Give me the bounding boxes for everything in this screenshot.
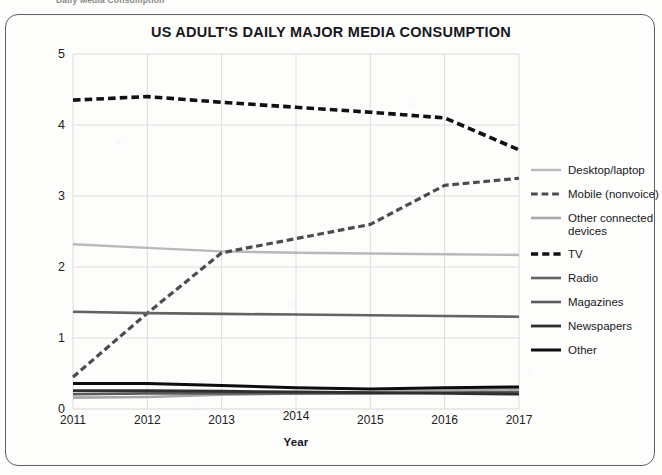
legend-item[interactable]: TV <box>531 247 659 262</box>
legend-item[interactable]: Desktop/laptop <box>531 163 659 178</box>
legend-item-label: Magazines <box>568 295 624 309</box>
legend-item[interactable]: Other connected devices <box>531 211 659 238</box>
line-chart-canvas <box>73 54 519 409</box>
legend-item-label: Radio <box>568 271 598 285</box>
page-caption-cropped: Daily Media Consumption <box>56 0 165 5</box>
y-axis: 012345 <box>32 54 65 409</box>
scanned-page: Daily Media Consumption US ADULT'S DAILY… <box>0 0 662 475</box>
plot-area <box>73 54 519 409</box>
legend-swatch-icon <box>531 271 561 285</box>
legend-swatch-icon <box>531 187 561 201</box>
y-axis-tick-label: 1 <box>58 331 65 345</box>
x-axis-tick-label: 2011 <box>60 413 86 427</box>
legend-swatch-icon <box>531 319 561 333</box>
plot-container: 012345 2011201220132014201520162017 Year <box>32 54 519 409</box>
legend-swatch-icon <box>531 211 561 225</box>
x-axis: 2011201220132014201520162017 <box>73 411 519 435</box>
legend-swatch-icon <box>531 247 561 261</box>
chart-legend: Desktop/laptopMobile (nonvoice)Other con… <box>531 163 659 367</box>
legend-item-label: Mobile (nonvoice) <box>568 187 659 201</box>
y-axis-tick-label: 4 <box>58 118 65 132</box>
y-axis-tick-label: 5 <box>58 47 65 61</box>
legend-swatch-icon <box>531 163 561 177</box>
legend-item-label: Other <box>568 343 597 357</box>
legend-item-label: TV <box>568 247 583 261</box>
x-axis-tick-label: 2012 <box>134 413 161 427</box>
x-axis-tick-label: 2017 <box>506 413 533 427</box>
y-axis-tick-label: 2 <box>58 260 65 274</box>
x-axis-tick-label: 2016 <box>431 413 458 427</box>
legend-swatch-icon <box>531 343 561 357</box>
x-axis-tick-label: 2014 <box>283 409 310 423</box>
chart-title: US ADULT'S DAILY MAJOR MEDIA CONSUMPTION <box>0 24 662 40</box>
legend-swatch-icon <box>531 295 561 309</box>
legend-item-label: Newspapers <box>568 319 632 333</box>
legend-item-label: Other connected devices <box>568 211 659 238</box>
y-axis-tick-label: 3 <box>58 189 65 203</box>
legend-item[interactable]: Other <box>531 343 659 358</box>
legend-item[interactable]: Mobile (nonvoice) <box>531 187 659 202</box>
x-axis-tick-label: 2015 <box>357 413 384 427</box>
legend-item[interactable]: Radio <box>531 271 659 286</box>
legend-item[interactable]: Magazines <box>531 295 659 310</box>
x-axis-tick-label: 2013 <box>208 413 235 427</box>
legend-item-label: Desktop/laptop <box>568 163 645 177</box>
legend-item[interactable]: Newspapers <box>531 319 659 334</box>
x-axis-title: Year <box>73 436 519 448</box>
